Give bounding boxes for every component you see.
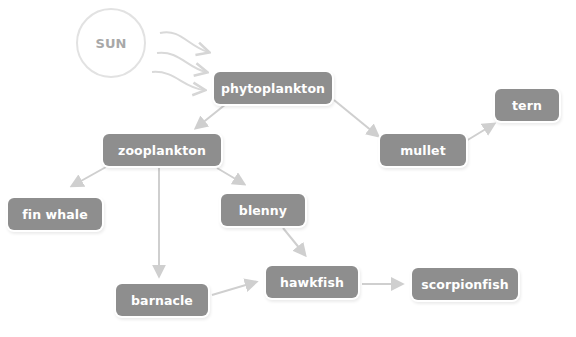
node-label: hawkfish [280, 275, 344, 290]
node-label: barnacle [131, 293, 193, 308]
node-hawkfish: hawkfish [266, 266, 358, 298]
node-label: mullet [400, 143, 446, 158]
node-label: zooplankton [118, 143, 206, 158]
node-label: blenny [239, 203, 287, 218]
sun-node: SUN [76, 8, 146, 78]
node-phytoplankton: phytoplankton [214, 72, 332, 104]
sun-energy-arrows [152, 32, 208, 90]
node-label: scorpionfish [421, 277, 509, 292]
node-tern: tern [495, 89, 559, 121]
node-label: phytoplankton [221, 81, 325, 96]
node-zooplankton: zooplankton [103, 134, 221, 166]
node-blenny: blenny [221, 194, 305, 226]
node-label: tern [512, 98, 542, 113]
node-barnacle: barnacle [116, 284, 208, 316]
node-label: fin whale [22, 207, 88, 222]
sun-label: SUN [96, 36, 127, 51]
node-mullet: mullet [380, 134, 466, 166]
node-fin-whale: fin whale [8, 198, 102, 230]
node-scorpionfish: scorpionfish [412, 268, 518, 300]
